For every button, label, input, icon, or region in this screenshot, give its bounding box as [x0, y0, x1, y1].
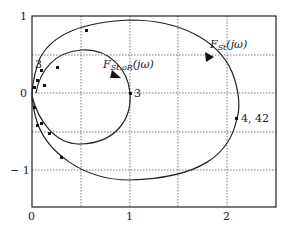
nyquist-plot: 1 0 − 1 0 1 2 3 3 4, 42 FSt(jω) FSt,oR(j…	[0, 0, 292, 233]
label-f-st: FSt(jω)	[209, 38, 247, 52]
label-f-st-or: FSt,oR(jω)	[102, 58, 154, 72]
x-tick-0: 0	[28, 210, 35, 223]
arrow-outer-icon	[205, 52, 214, 62]
curve-f-st	[32, 20, 239, 180]
x-tick-2: 2	[223, 210, 230, 223]
y-tick-minus-1: − 1	[10, 164, 30, 177]
y-tick-0: 0	[20, 87, 27, 100]
x-tick-1: 1	[126, 210, 133, 223]
inner-mark-3: 3	[134, 87, 141, 100]
y-tick-1: 1	[20, 10, 27, 23]
outer-end-mark: 4, 42	[241, 112, 269, 125]
outer-mark-3: 3	[35, 58, 42, 71]
